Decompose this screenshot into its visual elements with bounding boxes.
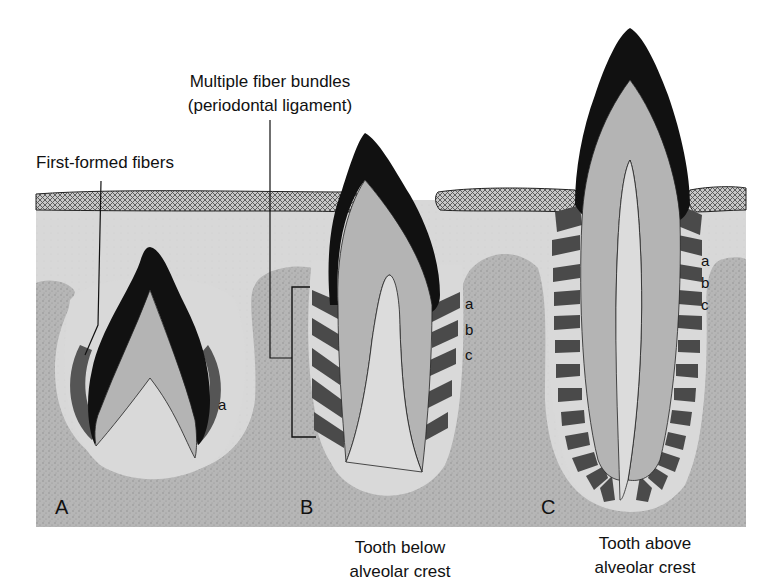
caption-B-line1: Tooth below xyxy=(355,538,446,558)
label-multiple-fiber-bundles: Multiple fiber bundles xyxy=(190,72,351,92)
caption-C-line1: Tooth above xyxy=(599,534,692,554)
panel-letter-B: B xyxy=(300,496,313,519)
fiber-label-B-a: a xyxy=(465,296,473,312)
caption-B-line2: alveolar crest xyxy=(349,562,450,582)
label-first-formed-fibers: First-formed fibers xyxy=(36,153,174,173)
label-periodontal-ligament: (periodontal ligament) xyxy=(188,96,352,116)
fiber-label-C-c: c xyxy=(701,297,709,313)
fiber-label-C-b: b xyxy=(701,275,709,291)
caption-C-line2: alveolar crest xyxy=(594,558,695,578)
fiber-label-A-a: a xyxy=(218,397,226,413)
fiber-label-B-c: c xyxy=(465,347,473,363)
gingiva-left xyxy=(36,191,358,212)
gingiva-right xyxy=(688,187,746,212)
panel-letter-C: C xyxy=(541,496,555,519)
tooth-eruption-diagram xyxy=(0,0,770,586)
panel-letter-A: A xyxy=(55,496,68,519)
gingiva-mid xyxy=(436,188,577,212)
fiber-label-C-a: a xyxy=(701,253,709,269)
fiber-label-B-b: b xyxy=(465,322,473,338)
